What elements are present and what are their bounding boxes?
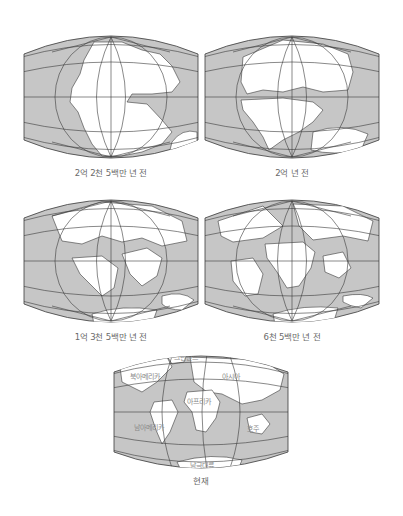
label-africa: 아프리카 <box>187 397 212 406</box>
label-south-america: 남아메리카 <box>134 423 165 432</box>
laurasia-gondwana-map <box>203 32 381 162</box>
map-panel-200ma: 2억 년 전 <box>203 32 381 172</box>
map-panel-225ma: 2억 2천 5백만 년 전 <box>22 32 200 172</box>
label-greenland: 그린란드 <box>174 353 199 362</box>
cretaceous-map <box>22 196 200 326</box>
map-panel-65ma: 6천 5백만 년 전 <box>203 196 381 336</box>
map-caption: 2억 년 전 <box>203 166 381 178</box>
label-north-america: 북아메리카 <box>130 372 161 381</box>
map-panel-present: 그린란드 북아메리카 아시아 아프리카 남아메리카 호주 남극대륙 현재 <box>112 352 290 502</box>
map-caption: 현재 <box>112 474 290 486</box>
map-panel-135ma: 1억 3천 5백만 년 전 <box>22 196 200 336</box>
paleogene-map <box>203 196 381 326</box>
label-antarctica: 남극대륙 <box>190 461 215 470</box>
present-world-map: 그린란드 북아메리카 아시아 아프리카 남아메리카 호주 남극대륙 <box>112 352 290 472</box>
label-australia: 호주 <box>247 425 260 433</box>
map-caption: 6천 5백만 년 전 <box>203 330 381 342</box>
label-asia: 아시아 <box>222 372 241 381</box>
map-caption: 1억 3천 5백만 년 전 <box>22 330 200 342</box>
pangaea-map <box>22 32 200 162</box>
map-caption: 2억 2천 5백만 년 전 <box>22 166 200 178</box>
